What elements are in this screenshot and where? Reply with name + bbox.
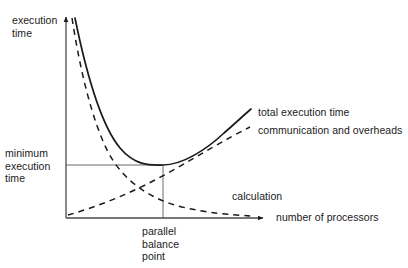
series-total-execution-time-curve	[75, 18, 251, 165]
series-communication-curve	[68, 127, 250, 215]
series-label-total-execution-time: total execution time	[258, 106, 349, 119]
axis-label-y-line1: execution	[12, 14, 57, 26]
annotation-minimum-execution-time: minimumexecutiontime	[5, 147, 50, 185]
pbp-line1: parallel	[142, 225, 176, 237]
min-exec-line2: execution	[5, 160, 50, 172]
min-exec-line3: time	[5, 172, 25, 184]
pbp-line2: balance	[142, 238, 179, 250]
series-label-communication-and-overheads: communication and overheads	[258, 124, 402, 137]
axis-label-y: executiontime	[12, 14, 57, 39]
chart-figure: executiontime number of processors minim…	[0, 0, 408, 268]
annotation-parallel-balance-point: parallelbalancepoint	[142, 225, 179, 263]
min-exec-line1: minimum	[5, 147, 48, 159]
pbp-line3: point	[142, 250, 165, 262]
series-calculation-curve	[72, 18, 252, 216]
series-label-calculation: calculation	[232, 190, 282, 203]
axis-label-x: number of processors	[276, 211, 379, 224]
axis-label-y-line2: time	[12, 27, 32, 39]
